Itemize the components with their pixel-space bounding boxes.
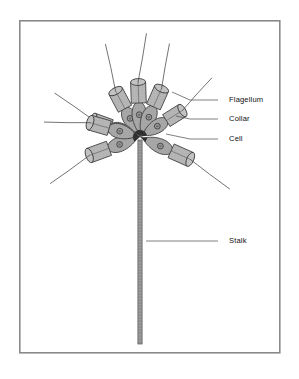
stalk-group — [138, 140, 142, 344]
choanoflagellate-diagram: FlagellumCollarCellStalk — [0, 0, 299, 379]
figure-root: FlagellumCollarCellStalk — [0, 0, 299, 379]
nucleolus — [159, 145, 161, 147]
stalk-shape — [138, 140, 142, 344]
nucleolus — [118, 143, 120, 145]
label-collar: Collar — [229, 114, 250, 123]
nucleolus — [148, 116, 150, 118]
nucleolus — [129, 117, 131, 119]
figure-frame — [20, 21, 280, 353]
label-stalk: Stalk — [229, 236, 247, 245]
label-cell: Cell — [229, 134, 243, 143]
label-flagellum: Flagellum — [229, 95, 263, 104]
nucleolus — [156, 125, 158, 127]
nucleolus — [138, 113, 140, 115]
nucleolus — [119, 130, 121, 132]
